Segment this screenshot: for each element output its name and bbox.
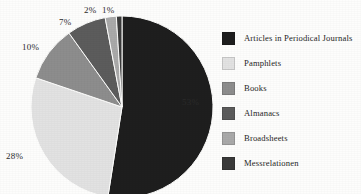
- legend-swatch-icon: [222, 82, 235, 95]
- slice-label-broadsheets: 2%: [84, 6, 96, 15]
- legend-item-label: Broadsheets: [244, 134, 288, 143]
- slice-label-books: 10%: [22, 43, 39, 52]
- chart-legend: Articles in Periodical Journals Pamphlet…: [222, 26, 361, 176]
- slice-label-pamphlets: 28%: [6, 152, 23, 161]
- legend-item-label: Books: [244, 84, 267, 93]
- legend-item-messrelationen[interactable]: Messrelationen: [222, 151, 361, 176]
- legend-swatch-icon: [222, 157, 235, 170]
- pie-chart-figure: 53% 28% 10% 7% 2% 1% Articles in Periodi…: [0, 0, 361, 194]
- legend-swatch-icon: [222, 32, 235, 45]
- slice-label-messrelationen: 1%: [102, 6, 114, 15]
- legend-item-pamphlets[interactable]: Pamphlets: [222, 51, 361, 76]
- legend-item-almanacs[interactable]: Almanacs: [222, 101, 361, 126]
- legend-item-broadsheets[interactable]: Broadsheets: [222, 126, 361, 151]
- legend-swatch-icon: [222, 107, 235, 120]
- legend-item-books[interactable]: Books: [222, 76, 361, 101]
- legend-item-articles-in-periodical-journals[interactable]: Articles in Periodical Journals: [222, 26, 361, 51]
- legend-swatch-icon: [222, 132, 235, 145]
- legend-item-label: Messrelationen: [244, 159, 299, 168]
- legend-item-label: Articles in Periodical Journals: [244, 34, 352, 43]
- legend-item-label: Pamphlets: [244, 59, 281, 68]
- slice-label-articles-in-periodical-journals: 53%: [182, 98, 199, 107]
- pie-chart-plot-area: 53% 28% 10% 7% 2% 1%: [0, 0, 215, 194]
- legend-item-label: Almanacs: [244, 109, 280, 118]
- slice-label-almanacs: 7%: [59, 18, 71, 27]
- legend-swatch-icon: [222, 57, 235, 70]
